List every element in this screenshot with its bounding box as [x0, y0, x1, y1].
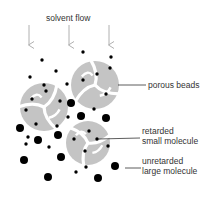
- unretarded-label-line1: unretarded: [142, 156, 183, 166]
- small-molecule: [83, 149, 86, 152]
- large-molecule: [77, 112, 85, 120]
- retarded-label-line2: small molecule: [142, 136, 198, 146]
- large-molecule: [102, 114, 110, 122]
- porous-beads-label: porous beads: [148, 80, 200, 90]
- small-molecule: [106, 144, 109, 147]
- small-molecule: [92, 107, 95, 110]
- small-molecule: [28, 75, 31, 78]
- solvent-flow-label: solvent flow: [46, 13, 91, 23]
- small-molecule: [109, 55, 112, 58]
- porous-bead: [71, 59, 119, 109]
- small-molecule: [95, 72, 98, 75]
- porous-beads: [18, 59, 119, 166]
- gel-filtration-diagram: solvent flow porous beads retarded small…: [0, 0, 216, 200]
- unretarded-label-line2: large molecule: [142, 166, 198, 176]
- small-molecule: [40, 58, 43, 61]
- small-molecule: [34, 122, 37, 125]
- large-molecule: [16, 124, 24, 132]
- large-molecule: [34, 136, 42, 144]
- small-molecule: [30, 97, 33, 100]
- small-molecule: [26, 135, 29, 138]
- small-molecule: [66, 115, 69, 118]
- large-molecule: [20, 156, 28, 164]
- small-molecule: [24, 142, 27, 145]
- small-molecule: [74, 170, 77, 173]
- solvent-flow-arrows: [29, 25, 109, 45]
- small-molecule: [84, 165, 87, 168]
- porous-bead: [18, 83, 68, 131]
- small-molecule: [58, 99, 61, 102]
- small-molecule: [65, 82, 68, 85]
- large-molecule: [94, 174, 102, 182]
- small-molecule: [81, 78, 84, 81]
- small-molecule: [72, 137, 75, 140]
- small-molecule: [47, 145, 50, 148]
- small-molecule: [104, 92, 107, 95]
- small-molecule: [24, 108, 27, 111]
- small-molecule: [81, 50, 84, 53]
- small-molecule: [42, 83, 45, 86]
- small-molecule: [108, 66, 111, 69]
- large-molecule: [54, 131, 62, 139]
- large-molecule: [44, 173, 52, 181]
- large-molecule: [57, 153, 65, 161]
- retarded-label-line1: retarded: [142, 126, 174, 136]
- porous-bead: [66, 121, 111, 167]
- large-molecule: [111, 162, 119, 170]
- small-molecule: [55, 124, 58, 127]
- small-molecule: [44, 89, 47, 92]
- small-molecule: [54, 69, 57, 72]
- small-molecule: [87, 129, 90, 132]
- large-molecule: [67, 99, 75, 107]
